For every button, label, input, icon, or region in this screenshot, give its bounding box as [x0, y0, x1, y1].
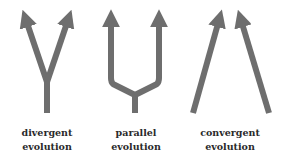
label-line-1: parallel — [96, 126, 176, 140]
label-line-1: convergent — [190, 126, 270, 140]
label-line-1: divergent — [7, 126, 87, 140]
parallel-evolution-icon — [111, 20, 159, 113]
convergent-evolution-label: convergent evolution — [190, 126, 270, 154]
parallel-evolution-label: parallel evolution — [96, 126, 176, 154]
label-line-2: evolution — [96, 140, 176, 154]
label-line-2: evolution — [7, 140, 87, 154]
label-line-2: evolution — [190, 140, 270, 154]
divergent-evolution-label: divergent evolution — [7, 126, 87, 154]
divergent-evolution-icon — [26, 20, 68, 113]
convergent-evolution-icon — [193, 20, 269, 113]
